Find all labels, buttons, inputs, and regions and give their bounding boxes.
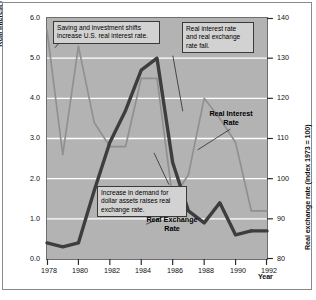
y-tick-right-5: 130 [277, 53, 301, 62]
y-tick-left-2: 2.0 [18, 174, 40, 183]
y-tick-right-6: 140 [277, 13, 301, 22]
y-tick-right-0: 80 [277, 254, 301, 263]
y-tick-left-4: 4.0 [18, 93, 40, 102]
series-label-real-interest-rate: Real Interest Rate [199, 110, 263, 127]
y-tick-left-6: 6.0 [18, 13, 40, 22]
x-tick-1982: 1982 [95, 266, 129, 275]
y-tick-right-4: 120 [277, 93, 301, 102]
x-tick-1988: 1988 [189, 266, 223, 275]
y-axis-left-title: Real interest rate (%) [0, 0, 4, 92]
x-tick-1992: 1992 [252, 266, 286, 275]
y-axis-right-title: Real exchange rate (index 1973 = 100) [303, 20, 312, 250]
leader-line-real-interest [198, 129, 231, 150]
annotation-rates-fall: Real interest rate and real exchange rat… [182, 22, 254, 53]
y-tick-right-3: 110 [277, 133, 301, 142]
y-tick-right-1: 90 [277, 214, 301, 223]
leader-line-rates-fall [173, 56, 183, 112]
y-tick-right-2: 100 [277, 174, 301, 183]
x-tick-1980: 1980 [63, 266, 97, 275]
x-tick-1990: 1990 [221, 266, 255, 275]
plot-area: Saving and investment shifts increase U.… [46, 17, 268, 260]
annotation-saving-investment: Saving and investment shifts increase U.… [53, 21, 160, 44]
y-tick-left-3: 3.0 [18, 133, 40, 142]
x-tick-1984: 1984 [126, 266, 160, 275]
y-tick-left-5: 5.0 [18, 53, 40, 62]
x-tick-1978: 1978 [32, 266, 66, 275]
chart-figure: Real interest rate (%) Real exchange rat… [0, 0, 316, 300]
annotation-dollar-demand: Increase in demand for dollar assets rai… [97, 186, 187, 217]
y-tick-left-0: 0.0 [18, 254, 40, 263]
x-tick-1986: 1986 [158, 266, 192, 275]
series-label-real-exchange-rate: Real Exchange Rate [135, 216, 209, 233]
y-tick-left-1: 1.0 [18, 214, 40, 223]
